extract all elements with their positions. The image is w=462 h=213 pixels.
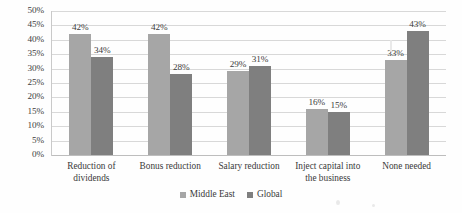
y-axis-tick: 35% bbox=[27, 50, 44, 59]
bar[interactable] bbox=[69, 34, 91, 155]
bar-chart: 50%45%40%35%30%25%20%15%10%5%0% 42%34%42… bbox=[0, 0, 462, 213]
bar-slot: 34% bbox=[91, 11, 113, 155]
bar-slot: 16% bbox=[306, 11, 328, 155]
chart-legend: Middle EastGlobal bbox=[0, 190, 462, 199]
bar-pair: 16%15% bbox=[288, 11, 367, 155]
bar[interactable] bbox=[170, 74, 192, 155]
x-axis-category-label: Inject capital into the business bbox=[288, 160, 367, 184]
scan-artifact bbox=[372, 204, 375, 207]
bar-pair: 33%43% bbox=[367, 11, 446, 155]
bar[interactable] bbox=[328, 112, 350, 155]
legend-label: Global bbox=[257, 190, 282, 199]
bar[interactable] bbox=[91, 57, 113, 155]
bar-value-label: 28% bbox=[173, 63, 190, 72]
bar-value-label: 42% bbox=[151, 23, 168, 32]
bar-pair: 29%31% bbox=[210, 11, 289, 155]
scan-artifact bbox=[336, 200, 340, 205]
bar-group: 42%34% bbox=[52, 11, 131, 155]
x-axis-category-label: Bonus reduction bbox=[131, 160, 210, 184]
bar-value-label: 16% bbox=[309, 98, 326, 107]
y-axis-tick: 5% bbox=[32, 136, 44, 145]
bar-group: 16%15% bbox=[288, 11, 367, 155]
bar-pair: 42%34% bbox=[52, 11, 131, 155]
bar-value-label: 43% bbox=[409, 20, 426, 29]
bar[interactable] bbox=[385, 60, 407, 155]
y-axis-tick: 0% bbox=[32, 150, 44, 159]
bar-pair: 42%28% bbox=[131, 11, 210, 155]
legend-item[interactable]: Middle East bbox=[180, 190, 235, 199]
bar-groups: 42%34%42%28%29%31%16%15%33%43% bbox=[52, 11, 446, 155]
x-axis-category-labels: Reduction of dividendsBonus reductionSal… bbox=[52, 160, 446, 184]
bar-slot: 33% bbox=[385, 11, 407, 155]
y-axis-tick: 10% bbox=[27, 122, 44, 131]
y-axis-tick-labels: 50%45%40%35%30%25%20%15%10%5%0% bbox=[0, 11, 48, 155]
legend-swatch-icon bbox=[180, 192, 186, 198]
y-axis-tick: 50% bbox=[27, 6, 44, 15]
legend-swatch-icon bbox=[247, 192, 253, 198]
bar-slot: 28% bbox=[170, 11, 192, 155]
bar-slot: 15% bbox=[328, 11, 350, 155]
bar-group: 29%31% bbox=[210, 11, 289, 155]
y-axis-tick: 45% bbox=[27, 21, 44, 30]
bar-value-label: 31% bbox=[252, 55, 269, 64]
plot-area: 42%34%42%28%29%31%16%15%33%43% bbox=[52, 11, 446, 155]
bar[interactable] bbox=[148, 34, 170, 155]
bar[interactable] bbox=[227, 71, 249, 155]
y-axis-tick: 30% bbox=[27, 64, 44, 73]
bar-slot: 29% bbox=[227, 11, 249, 155]
bar-group: 42%28% bbox=[131, 11, 210, 155]
y-axis-tick: 40% bbox=[27, 35, 44, 44]
bar-value-label: 34% bbox=[94, 46, 111, 55]
bar[interactable] bbox=[407, 31, 429, 155]
bar-value-label: 42% bbox=[72, 23, 89, 32]
x-axis-category-label: Reduction of dividends bbox=[52, 160, 131, 184]
bar-value-label: 15% bbox=[331, 101, 348, 110]
bar-slot: 31% bbox=[249, 11, 271, 155]
bar-slot: 42% bbox=[148, 11, 170, 155]
bar[interactable] bbox=[249, 66, 271, 155]
bar-slot: 42% bbox=[69, 11, 91, 155]
y-axis-tick: 15% bbox=[27, 107, 44, 116]
bar-slot: 43% bbox=[407, 11, 429, 155]
bar-value-label: 33% bbox=[387, 49, 404, 58]
axis-baseline bbox=[52, 155, 446, 156]
y-axis-tick: 20% bbox=[27, 93, 44, 102]
x-axis-category-label: Salary reduction bbox=[210, 160, 289, 184]
x-axis-category-label: None needed bbox=[367, 160, 446, 184]
bar-value-label: 29% bbox=[230, 60, 247, 69]
bar-group: 33%43% bbox=[367, 11, 446, 155]
legend-label: Middle East bbox=[190, 190, 235, 199]
y-axis-tick: 25% bbox=[27, 78, 44, 87]
legend-item[interactable]: Global bbox=[247, 190, 282, 199]
bar[interactable] bbox=[306, 109, 328, 155]
